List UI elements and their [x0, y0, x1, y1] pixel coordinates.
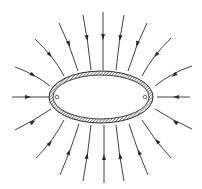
- elliptical-shell: [49, 71, 153, 123]
- arrow-icon: [85, 153, 90, 160]
- arrow-icon: [66, 148, 72, 155]
- field-line-bot-8: [142, 120, 171, 158]
- field-diagram: [0, 0, 202, 189]
- arrow-icon: [29, 72, 36, 79]
- field-line-bot-4: [83, 125, 91, 181]
- field-line-top-1: [15, 67, 50, 86]
- field-line-bot-3: [60, 124, 79, 175]
- field-line-top-4: [83, 15, 91, 70]
- field-line-top-6: [116, 15, 124, 70]
- right-point-marker: [143, 95, 147, 99]
- arrow-icon: [173, 95, 179, 99]
- arrow-icon: [25, 95, 31, 99]
- field-line-bot-6: [116, 125, 124, 181]
- left-point-marker: [55, 95, 59, 99]
- arrow-icon: [102, 154, 106, 160]
- field-line-bot-9: [155, 109, 192, 129]
- field-line-bot-2: [36, 120, 64, 158]
- field-line-top-2: [35, 39, 64, 76]
- arrow-icon: [118, 153, 123, 160]
- field-line-top-8: [142, 38, 171, 76]
- field-line-top-7: [128, 23, 147, 71]
- arrow-icon: [29, 119, 36, 126]
- field-line-bot-1: [15, 109, 51, 130]
- arrow-icon: [136, 148, 142, 155]
- field-line-bot-7: [129, 124, 148, 175]
- arrow-icon: [101, 34, 105, 40]
- field-line-top-3: [59, 23, 78, 71]
